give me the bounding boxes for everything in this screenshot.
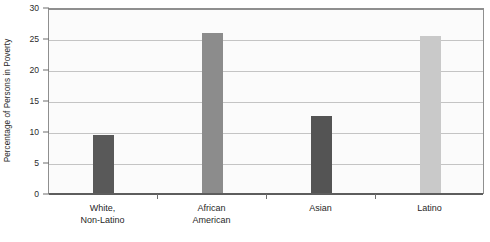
y-axis-tick-mark [43,194,49,195]
plot-area [48,8,484,194]
y-axis-tick-label: 10 [29,127,39,137]
y-axis-title-text: Percentage of Persons in Poverty [4,38,13,162]
y-axis-tick-labels: 051015202530 [16,8,42,194]
bar [420,36,441,193]
y-axis-title: Percentage of Persons in Poverty [0,0,16,200]
x-axis-label-line: Latino [417,203,442,213]
x-axis-tick-mark [266,194,267,199]
x-axis-label-line: African [197,203,225,213]
y-axis-tick-label: 15 [29,96,39,106]
y-axis-tick-label: 20 [29,65,39,75]
y-axis-tick-label: 5 [34,158,39,168]
y-axis-tick-mark [43,163,49,164]
y-axis-tick-mark [43,132,49,133]
y-axis-tick-mark [43,39,49,40]
x-axis-tick-marks [48,194,484,200]
bar-chart-figure: Percentage of Persons in Poverty 0510152… [0,0,490,242]
x-axis-category-label: AfricanAmerican [192,202,230,226]
x-axis-label-line: American [192,214,230,226]
y-axis-tick-mark [43,70,49,71]
y-axis-tick-mark [43,8,49,9]
x-axis-category-label: Latino [417,202,442,214]
x-axis-label-line: White, [90,203,116,213]
x-axis-tick-mark [375,194,376,199]
x-axis-category-label: White,Non-Latino [80,202,124,226]
x-axis-label-line: Non-Latino [80,214,124,226]
x-axis-tick-mark [157,194,158,199]
bar [93,135,114,193]
y-axis-tick-mark [43,101,49,102]
bar [202,33,223,193]
y-axis-tick-label: 0 [34,189,39,199]
y-axis-tick-label: 30 [29,3,39,13]
bars-layer [49,9,483,193]
x-axis-label-line: Asian [309,203,332,213]
x-axis-category-label: Asian [309,202,332,214]
bar [311,116,332,193]
y-axis-tick-label: 25 [29,34,39,44]
x-axis-category-labels: White,Non-LatinoAfricanAmericanAsianLati… [48,202,484,236]
